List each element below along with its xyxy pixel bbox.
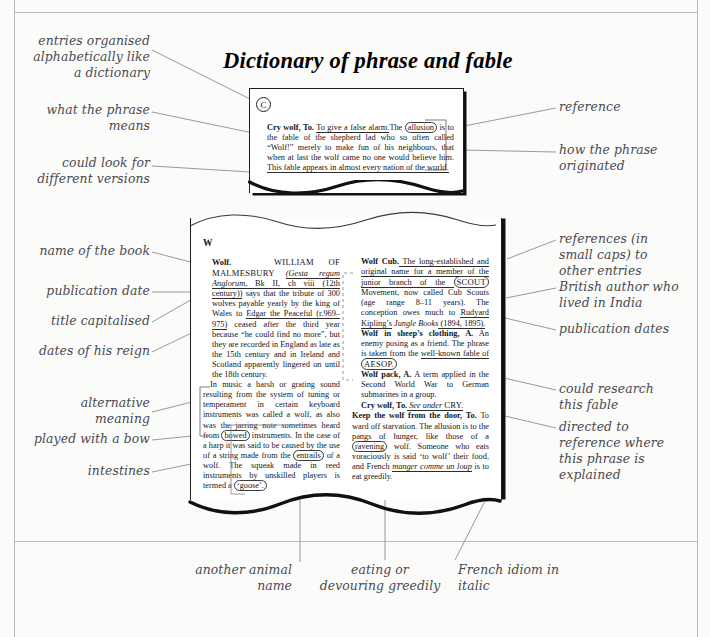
- entry-headword: Cry wolf, To.: [267, 123, 314, 132]
- annotation-dates-of-his-reign: dates of his reign: [20, 343, 150, 359]
- entry-cry-wolf: Cry wolf, To. To give a false alarm.The …: [258, 123, 454, 173]
- annotation-publication-dates: publication dates: [559, 321, 701, 337]
- annotation-references-small-caps: references (in small caps) to other entr…: [559, 231, 701, 279]
- annotation-name-of-the-book: name of the book: [20, 243, 150, 259]
- annotation-reference: reference: [559, 99, 699, 115]
- entry-body-1: The: [389, 123, 404, 132]
- entry-wolf-in-sheeps-clothing: Wolf in sheep’s clothing, A. An enemy po…: [352, 329, 489, 370]
- circled-ravening: ravening: [352, 441, 387, 452]
- annotation-publication-date: publication date: [20, 283, 150, 299]
- entry-underlined-tail: This fable appears in almost every natio…: [267, 163, 449, 173]
- entry-keep-wolf-from-door: Keep the wolf from the door, To. To ward…: [352, 411, 489, 482]
- annotation-different-versions: could look for different versions: [15, 155, 150, 187]
- annotation-entries-organised: entries organised alphabetically like a …: [20, 33, 150, 81]
- entry-definition: To give a false alarm.: [316, 123, 389, 133]
- entry-headword: Keep the wolf from the door, To.: [352, 411, 477, 420]
- entry-smallcaps-cry: CRY.: [444, 400, 463, 411]
- circled-allusion: allusion: [405, 122, 437, 133]
- frame-line-right: [697, 0, 698, 637]
- entry-headword: Cry wolf, To.: [361, 401, 407, 410]
- entry-wolf: Wolf. WILLIAM OF MALMESBURY (Gesta regum…: [203, 257, 340, 380]
- annotation-british-author: British author who lived in India: [559, 279, 701, 311]
- annotated-dictionary-page: Dictionary of phrase and fable C Cry wol…: [0, 0, 710, 637]
- entry-ref-rest: Bk II, ch viii: [247, 279, 322, 289]
- letter-marker-c: C: [256, 97, 271, 112]
- annotation-bracket-right-column: [340, 272, 356, 384]
- frame-line-top: [14, 12, 697, 13]
- circled-aesop: AESOP.: [361, 358, 397, 370]
- entry-headword: Wolf in sheep’s clothing, A.: [361, 329, 473, 338]
- entry-italic-work: Jungle Books: [392, 319, 439, 328]
- entry-see-under: See under: [407, 401, 444, 411]
- entry-wolf-cub: Wolf Cub. The long-established and origi…: [352, 257, 489, 329]
- annotation-title-capitalised: title capitalised: [20, 313, 150, 329]
- dictionary-column-right: Wolf Cub. The long-established and origi…: [352, 257, 489, 482]
- french-idiom-text: manger comme un loup: [392, 462, 472, 472]
- annotation-how-phrase-originated: how the phrase originated: [559, 142, 699, 174]
- annotation-intestines: intestines: [20, 463, 150, 479]
- entry-person-edgar: Edgar the Peaceful: [246, 309, 312, 319]
- annotation-played-with-a-bow: played with a bow: [15, 431, 150, 447]
- annotation-bracket-left-column: [198, 386, 214, 440]
- entry-underlined-fable: well-known fable of: [421, 349, 489, 359]
- page-title: Dictionary of phrase and fable: [223, 48, 513, 74]
- sheet-lower-top-edge: [186, 208, 510, 232]
- annotation-directed-to-reference: directed to reference where this phrase …: [559, 419, 701, 483]
- annotation-what-phrase-means: what the phrase means: [20, 102, 150, 134]
- entry-cry-wolf-cross-ref: Cry wolf, To. See under CRY.: [352, 400, 489, 411]
- entry-wolf-pack: Wolf pack, A. A term applied in the Seco…: [352, 370, 489, 400]
- entry-publication-dates: (1894, 1895).: [438, 319, 485, 329]
- entry-body-b: ceased after the third year because “he …: [212, 320, 340, 379]
- entry-headword: Wolf pack, A.: [361, 370, 411, 379]
- annotation-french-idiom: French idiom in italic: [458, 562, 578, 594]
- frame-line-bottom: [14, 541, 697, 542]
- sheet-upper-bottom-edge: [246, 180, 470, 206]
- annotation-alternative-meaning: alternative meaning: [20, 395, 150, 427]
- annotation-eating-devouring: eating or devouring greedily: [310, 562, 450, 594]
- section-letter-w: W: [203, 238, 213, 248]
- annotation-could-research-fable: could research this fable: [559, 381, 701, 413]
- annotation-bracket-bottom: [229, 424, 309, 496]
- entry-headword: Wolf Cub.: [361, 257, 399, 266]
- entry-headword: Wolf.: [212, 258, 231, 267]
- circled-scout: SCOUT: [454, 276, 489, 288]
- annotation-another-animal-name: another animal name: [170, 562, 292, 594]
